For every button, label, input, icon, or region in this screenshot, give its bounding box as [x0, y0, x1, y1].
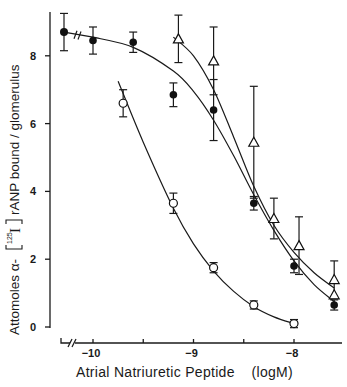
y-axis-label: Attomoles α-125IrANP bound / glomerulus	[6, 64, 23, 335]
svg-text:−9: −9	[185, 347, 198, 359]
svg-text:0: 0	[30, 321, 36, 333]
svg-text:I: I	[7, 228, 23, 233]
svg-text:−8: −8	[286, 347, 299, 359]
svg-text:Attomoles α-: Attomoles α-	[7, 259, 22, 335]
control-point	[60, 28, 68, 36]
x-axis-label: Atrial Natriuretic Peptide (logM)	[76, 364, 293, 380]
fit-curves	[64, 31, 334, 324]
svg-text:8: 8	[30, 50, 36, 62]
tick-labels: 02468−10−9−8	[30, 50, 298, 359]
x-axis-unit: (logM)	[252, 364, 293, 380]
svg-text:2: 2	[30, 253, 36, 265]
error-bars	[60, 13, 338, 327]
svg-text:6: 6	[30, 118, 36, 130]
axes	[45, 12, 342, 347]
chart-canvas: 02468−10−9−8 Attomoles α-125IrANP bound …	[0, 0, 347, 387]
data-points	[60, 28, 339, 328]
svg-text:4: 4	[30, 185, 37, 197]
svg-text:rANP bound / glomerulus: rANP bound / glomerulus	[7, 64, 22, 215]
x-axis-title: Atrial Natriuretic Peptide	[76, 364, 235, 380]
svg-text:−10: −10	[82, 347, 101, 359]
